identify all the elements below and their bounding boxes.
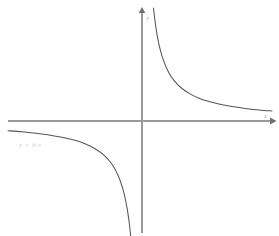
hyperbola-branch-quadrant-1: [154, 8, 273, 111]
plot-canvas: y x y = b/x: [0, 0, 279, 236]
hyperbola-figure: y x y = b/x: [0, 0, 279, 236]
y-axis-arrow-icon: [139, 7, 146, 13]
x-axis-arrow-icon: [270, 118, 277, 125]
x-axis-label: x: [263, 113, 267, 119]
equation-label: y = b/x: [18, 141, 42, 149]
y-axis-label: y: [146, 15, 150, 21]
